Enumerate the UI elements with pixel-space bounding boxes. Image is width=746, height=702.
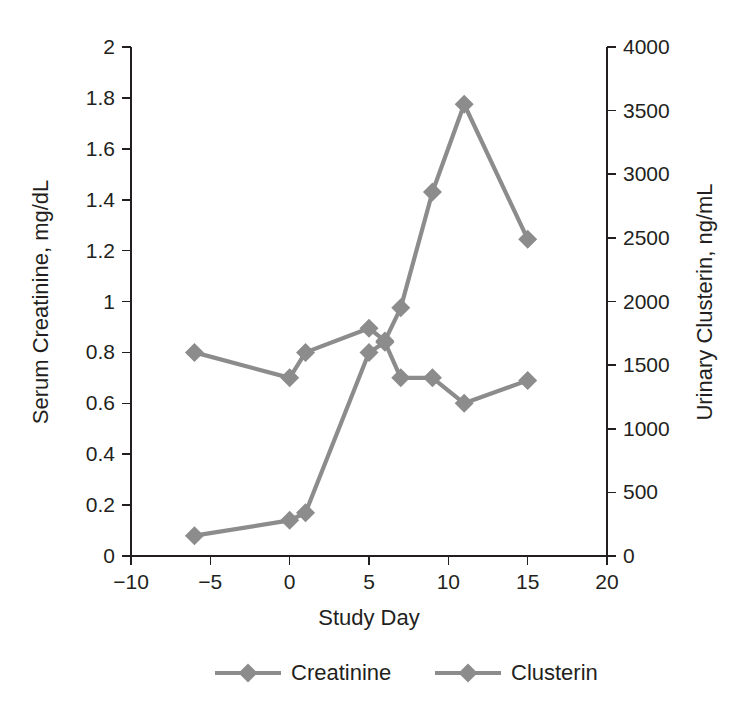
data-point xyxy=(185,343,204,362)
right-axis-tick-labels: 05001000150020002500300035004000 xyxy=(623,35,670,567)
data-point xyxy=(423,183,442,202)
x-tick-label: 0 xyxy=(284,570,296,593)
left-tick-label: 2 xyxy=(103,35,115,58)
left-tick-label: 0.8 xyxy=(86,340,115,363)
data-point xyxy=(185,526,204,545)
x-tick-label: −10 xyxy=(113,570,149,593)
left-tick-label: 0.2 xyxy=(86,493,115,516)
x-tick-label: 5 xyxy=(363,570,375,593)
x-tick-label: 15 xyxy=(516,570,539,593)
data-point xyxy=(518,371,537,390)
right-tick-label: 1000 xyxy=(623,417,670,440)
left-tick-label: 0 xyxy=(103,544,115,567)
right-tick-label: 0 xyxy=(623,544,635,567)
x-axis: −10−505101520 Study Day xyxy=(113,556,618,630)
x-axis-title: Study Day xyxy=(318,605,420,630)
left-axis-tick-labels: 00.20.40.60.811.21.41.61.82 xyxy=(86,35,116,567)
left-tick-label: 0.6 xyxy=(86,391,115,414)
series-line-creatinine xyxy=(194,342,527,535)
left-tick-label: 1.2 xyxy=(86,239,115,262)
right-tick-label: 2000 xyxy=(623,290,670,313)
left-tick-label: 0.4 xyxy=(86,442,116,465)
data-point xyxy=(296,343,315,362)
left-tick-label: 1.4 xyxy=(86,188,116,211)
left-tick-label: 1.8 xyxy=(86,86,115,109)
data-point xyxy=(280,368,299,387)
x-axis-ticks xyxy=(131,556,607,565)
x-tick-label: 10 xyxy=(437,570,460,593)
right-tick-label: 4000 xyxy=(623,35,670,58)
right-tick-label: 3500 xyxy=(623,99,670,122)
data-point xyxy=(518,230,537,249)
left-axis: 00.20.40.60.811.21.41.61.82 Serum Creati… xyxy=(28,35,131,567)
x-tick-label: 20 xyxy=(595,570,618,593)
right-tick-label: 500 xyxy=(623,480,658,503)
data-point xyxy=(391,298,410,317)
legend-item-creatinine: Creatinine xyxy=(215,660,391,685)
right-axis-title: Urinary Clusterin, ng/mL xyxy=(692,183,717,420)
data-point xyxy=(455,95,474,114)
right-axis: 05001000150020002500300035004000 Urinary… xyxy=(607,35,717,567)
data-point xyxy=(296,503,315,522)
series-line-clusterin xyxy=(194,104,527,378)
left-tick-label: 1 xyxy=(103,290,115,313)
chart-container: 00.20.40.60.811.21.41.61.82 Serum Creati… xyxy=(0,0,746,702)
dual-axis-line-chart: 00.20.40.60.811.21.41.61.82 Serum Creati… xyxy=(0,0,746,702)
left-tick-label: 1.6 xyxy=(86,137,115,160)
right-axis-ticks xyxy=(607,47,616,556)
legend-label: Clusterin xyxy=(511,660,598,685)
right-tick-label: 3000 xyxy=(623,162,670,185)
x-axis-tick-labels: −10−505101520 xyxy=(113,570,618,593)
data-point xyxy=(391,368,410,387)
x-tick-label: −5 xyxy=(198,570,222,593)
right-tick-label: 1500 xyxy=(623,353,670,376)
legend-label: Creatinine xyxy=(291,660,391,685)
legend-marker xyxy=(239,664,258,683)
legend-item-clusterin: Clusterin xyxy=(435,660,598,685)
left-axis-title: Serum Creatinine, mg/dL xyxy=(28,180,53,425)
chart-legend: CreatinineClusterin xyxy=(215,660,598,685)
right-tick-label: 2500 xyxy=(623,226,670,249)
legend-marker xyxy=(459,664,478,683)
data-point xyxy=(280,511,299,530)
left-axis-ticks xyxy=(122,47,131,556)
data-series-layer xyxy=(185,95,537,545)
series-clusterin xyxy=(185,95,537,388)
